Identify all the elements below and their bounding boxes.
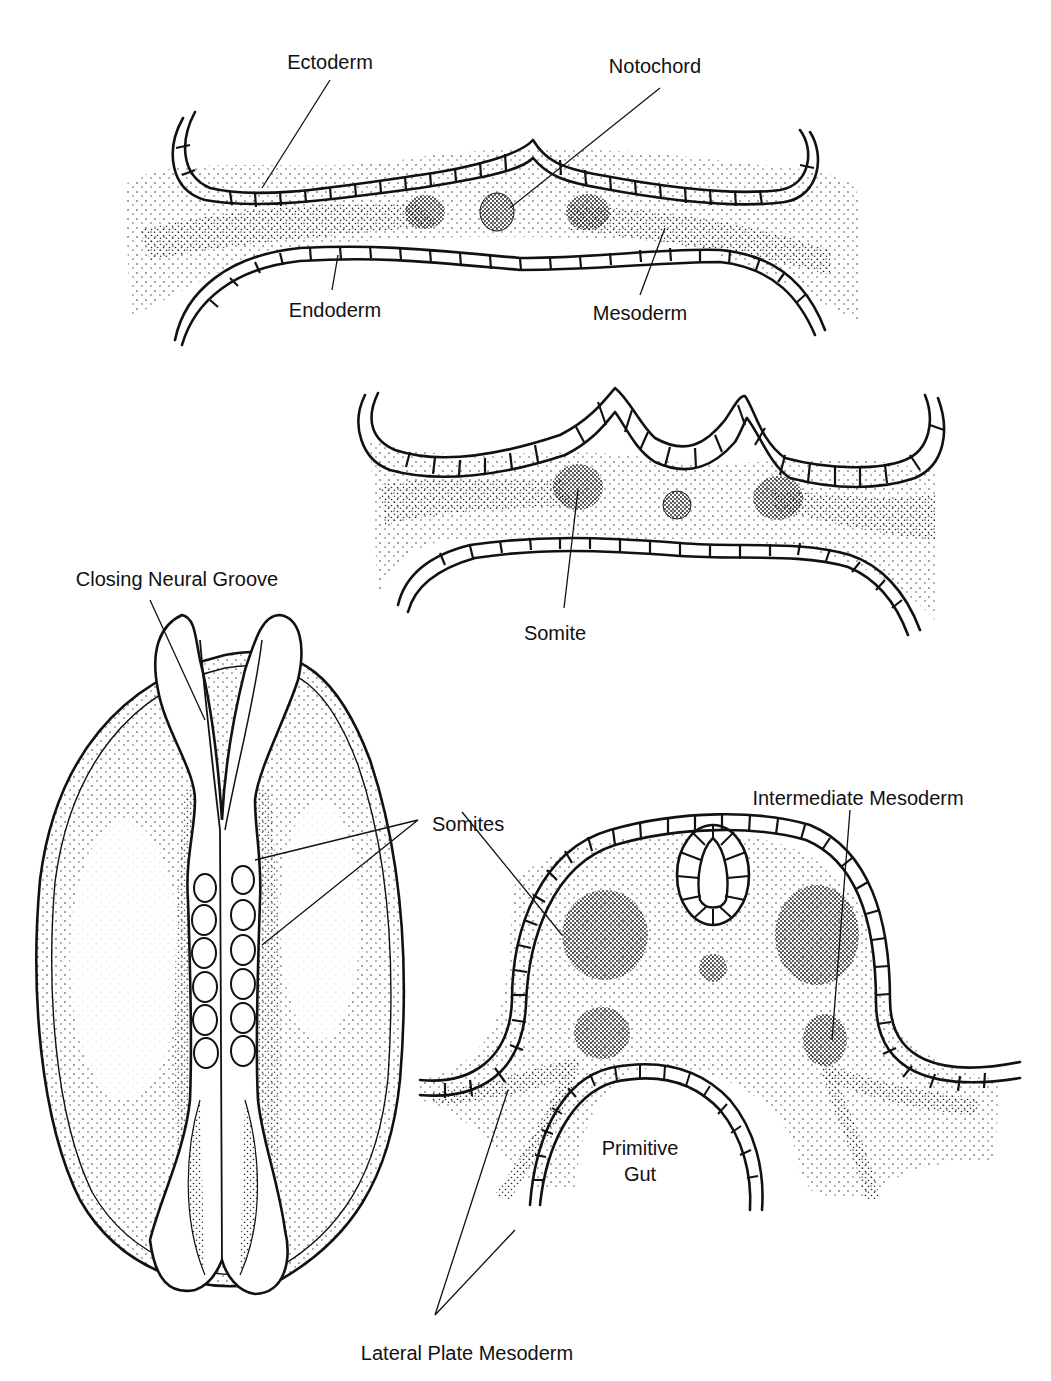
label-ectoderm: Ectoderm	[287, 52, 373, 72]
label-somite: Somite	[524, 623, 586, 643]
label-intermediate-mesoderm: Intermediate Mesoderm	[752, 788, 963, 808]
notochord-shape	[699, 954, 727, 982]
label-endoderm: Endoderm	[289, 300, 381, 320]
mesoderm-right-mass	[566, 194, 610, 230]
panel-b-neural-fold-section	[358, 388, 944, 635]
somite-left	[553, 464, 603, 510]
somite-right	[753, 476, 803, 520]
intermediate-mesoderm-right	[803, 1014, 847, 1066]
notochord-shape	[480, 193, 514, 231]
panel-a-trilaminar-disc	[125, 80, 860, 345]
intermediate-mesoderm-left	[574, 1007, 630, 1059]
label-notochord: Notochord	[609, 56, 701, 76]
label-mesoderm: Mesoderm	[593, 303, 687, 323]
endoderm-bottom	[408, 551, 908, 635]
label-somites: Somites	[432, 814, 504, 834]
somite-right	[775, 885, 859, 985]
somite-left	[562, 890, 648, 980]
pale-area-left	[70, 820, 180, 1100]
embryology-figure	[0, 0, 1051, 1381]
panel-d-neural-tube-section	[420, 810, 1020, 1315]
label-closing-neural-groove: Closing Neural Groove	[76, 569, 278, 589]
endoderm-bottom	[182, 259, 815, 345]
pale-area-right	[280, 800, 360, 1040]
panel-c-dorsal-view	[36, 600, 418, 1294]
label-primitive-gut-line2: Gut	[624, 1164, 656, 1184]
mesoderm-left-mass	[405, 195, 445, 229]
endoderm-cell-walls	[210, 246, 805, 307]
label-lateral-plate-mesoderm: Lateral Plate Mesoderm	[361, 1343, 573, 1363]
notochord-shape	[663, 491, 691, 519]
endoderm-top	[398, 538, 920, 630]
endoderm-top	[175, 247, 825, 340]
label-primitive-gut-line1: Primitive	[602, 1138, 679, 1158]
